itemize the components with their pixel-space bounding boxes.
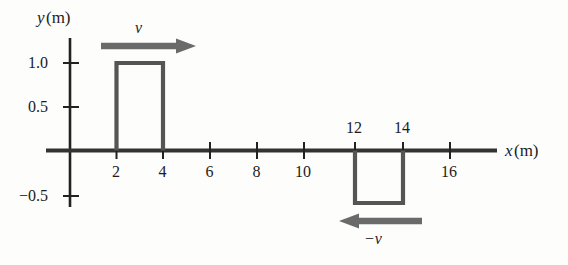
left-moving-pulse-curve: [355, 151, 403, 204]
x-tick-label-8: 8: [253, 164, 261, 180]
x-axis-unit: (m): [514, 141, 539, 160]
x-tick-label-10: 10: [295, 164, 311, 180]
x-tick-label-12: 12: [346, 120, 362, 136]
x-tick-label-14: 14: [394, 120, 410, 136]
x-axis-label: x (m): [505, 142, 539, 159]
y-axis-variable: y: [37, 8, 45, 27]
wave-pulse-figure: y (m) x (m) 1.0 0.5 −0.5 2 4 6 8 10 16 1…: [0, 0, 568, 265]
x-axis-variable: x: [505, 141, 513, 160]
right-moving-pulse-curve: [117, 63, 164, 151]
velocity-left-arrow-icon: [339, 214, 422, 229]
y-tick-label-0.5: 0.5: [28, 99, 48, 115]
x-tick-label-2: 2: [112, 164, 120, 180]
velocity-right-arrow-icon: [101, 39, 196, 54]
y-axis-label: y (m): [37, 9, 71, 26]
pulse-plot-svg: [0, 0, 568, 265]
velocity-right-label: v: [135, 20, 142, 36]
y-tick-label-1.0: 1.0: [28, 55, 48, 71]
velocity-left-label: −v: [364, 231, 382, 247]
y-tick-label-neg0.5: −0.5: [19, 188, 48, 204]
x-tick-label-6: 6: [206, 164, 214, 180]
y-axis-unit: (m): [46, 8, 71, 27]
x-tick-label-4: 4: [159, 164, 167, 180]
x-tick-label-16: 16: [441, 164, 457, 180]
